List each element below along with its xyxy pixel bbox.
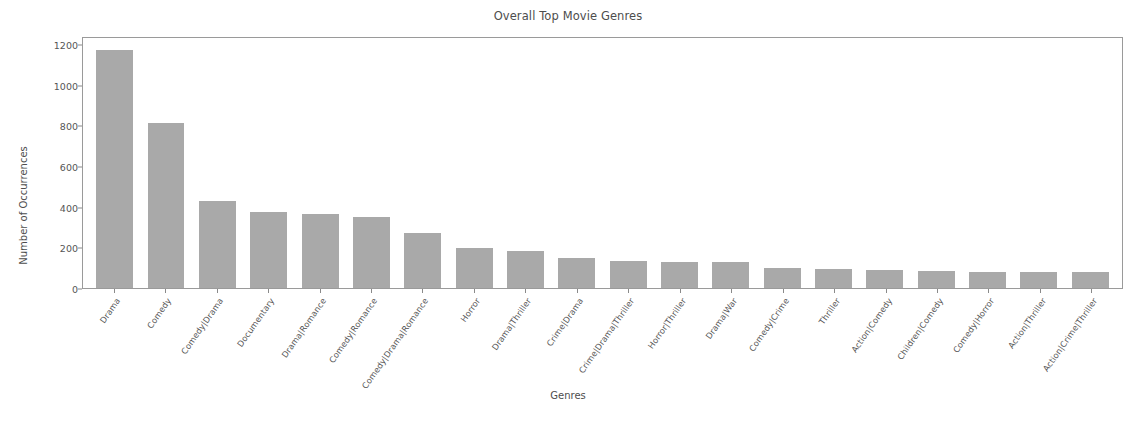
y-tick-label: 200 (60, 243, 78, 254)
bar (302, 214, 339, 288)
bar (558, 258, 595, 288)
x-tick-mark (217, 289, 218, 293)
y-tick-label: 1000 (54, 80, 78, 91)
x-tick-mark (577, 289, 578, 293)
x-tick-slot: Horror|Thriller (654, 289, 705, 389)
bar (866, 270, 903, 288)
bar (1072, 272, 1109, 288)
chart-title: Overall Top Movie Genres (0, 9, 1136, 23)
x-tick-slot: Horror (448, 289, 499, 389)
x-tick-mark (680, 289, 681, 293)
x-tick-mark (165, 289, 166, 293)
x-tick-slot: Comedy|Drama|Romance (397, 289, 448, 389)
x-tick-slot: Documentary (242, 289, 293, 389)
x-tick-label: Horror (458, 296, 482, 324)
x-tick-mark (988, 289, 989, 293)
bar-slot (705, 38, 756, 288)
x-tick-label: Drama (97, 296, 122, 325)
bar-slot (1013, 38, 1064, 288)
bar-slot (962, 38, 1013, 288)
bar-slot (192, 38, 243, 288)
x-tick-label: Drama|War (704, 296, 740, 341)
bar-slot (654, 38, 705, 288)
bar (456, 248, 493, 288)
bar-slot (551, 38, 602, 288)
bar (250, 212, 287, 288)
plot-area (82, 37, 1123, 289)
bar-slot (397, 38, 448, 288)
bar-slot (911, 38, 962, 288)
x-tick-slot: Comedy (139, 289, 190, 389)
x-tick-mark (1091, 289, 1092, 293)
x-tick-slot: Action|Crime|Thriller (1066, 289, 1117, 389)
x-tick-mark (320, 289, 321, 293)
x-tick-slot: Comedy|Drama (191, 289, 242, 389)
bar (507, 251, 544, 288)
x-tick-label: Comedy (145, 296, 173, 330)
bar-slot (243, 38, 294, 288)
x-tick-slot: Drama|Romance (294, 289, 345, 389)
x-tick-slot: Action|Thriller (1014, 289, 1065, 389)
bar (199, 201, 236, 288)
bar-slot (1065, 38, 1116, 288)
chart-figure: Overall Top Movie Genres Number of Occur… (0, 0, 1136, 425)
x-tick-label: Thriller (817, 296, 842, 326)
bar-slot (346, 38, 397, 288)
x-tick-mark (886, 289, 887, 293)
bar (353, 217, 390, 288)
bar-slot (294, 38, 345, 288)
x-tick-label: Crime|Drama (544, 296, 585, 348)
x-tick-mark (422, 289, 423, 293)
bar (1020, 272, 1057, 288)
bar (764, 268, 801, 288)
x-tick-mark (834, 289, 835, 293)
bar (969, 272, 1006, 288)
y-tick-label: 800 (60, 121, 78, 132)
x-tick-mark (268, 289, 269, 293)
bar (610, 261, 647, 288)
y-tick-label: 400 (60, 202, 78, 213)
x-axis-label: Genres (0, 390, 1136, 401)
x-tick-mark (371, 289, 372, 293)
x-tick-slot: Children|Comedy (911, 289, 962, 389)
x-tick-slot: Action|Comedy (860, 289, 911, 389)
x-tick-slot: Drama (88, 289, 139, 389)
x-tick-slot: Comedy|Horror (963, 289, 1014, 389)
bar (918, 271, 955, 288)
x-tick-slot: Crime|Drama (551, 289, 602, 389)
bar (712, 262, 749, 288)
bar-slot (808, 38, 859, 288)
y-tick-label: 1200 (54, 40, 78, 51)
x-tick-slot: Comedy|Crime (757, 289, 808, 389)
bar (815, 269, 852, 288)
y-tick-label: 600 (60, 162, 78, 173)
bar-slot (602, 38, 653, 288)
bar-series (83, 38, 1122, 288)
bar (96, 50, 133, 288)
x-tick-mark (525, 289, 526, 293)
bar-slot (89, 38, 140, 288)
x-tick-slot: Drama|War (705, 289, 756, 389)
bar-slot (500, 38, 551, 288)
x-tick-mark (474, 289, 475, 293)
bar-slot (859, 38, 910, 288)
bar (661, 262, 698, 288)
x-tick-mark (1040, 289, 1041, 293)
bar (404, 233, 441, 288)
x-tick-mark (114, 289, 115, 293)
x-tick-mark (731, 289, 732, 293)
x-axis: DramaComedyComedy|DramaDocumentaryDrama|… (82, 289, 1123, 389)
y-axis-label: Number of Occurrences (18, 121, 29, 291)
x-tick-mark (628, 289, 629, 293)
x-tick-mark (937, 289, 938, 293)
bar-slot (140, 38, 191, 288)
x-tick-mark (783, 289, 784, 293)
x-tick-slot: Thriller (808, 289, 859, 389)
x-tick-slot: Drama|Thriller (500, 289, 551, 389)
bar (148, 123, 185, 288)
bar-slot (756, 38, 807, 288)
bar-slot (448, 38, 499, 288)
x-tick-slot: Crime|Drama|Thriller (603, 289, 654, 389)
y-axis: Number of Occurrences 020040060080010001… (0, 37, 82, 289)
